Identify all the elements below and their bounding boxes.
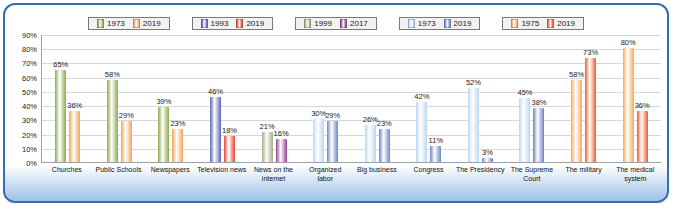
bar-group: 58%73% <box>558 35 610 162</box>
bar-value-label: 38% <box>531 98 546 107</box>
bar-value-label: 73% <box>583 48 598 57</box>
bar[interactable]: 80% <box>623 48 634 162</box>
y-tick-label: 80% <box>22 45 37 54</box>
bar-group: 21%16% <box>248 35 300 162</box>
legend-item[interactable]: 2019 <box>133 19 161 28</box>
legend-label: 1975 <box>521 19 539 28</box>
legend-swatch-icon <box>201 19 208 28</box>
legend-label: 2019 <box>143 19 161 28</box>
legend-item[interactable]: 1973 <box>408 19 436 28</box>
bar-value-label: 29% <box>119 111 134 120</box>
x-tick-label: The Presidency <box>454 165 506 195</box>
bar[interactable]: 58% <box>107 80 118 162</box>
x-tick-label: The medical system <box>609 165 661 195</box>
y-tick-label: 10% <box>22 144 37 153</box>
bar[interactable]: 46% <box>210 97 221 162</box>
bar[interactable]: 45% <box>519 98 530 162</box>
bar[interactable]: 26% <box>365 125 376 162</box>
bar[interactable]: 21% <box>262 132 273 162</box>
bar[interactable]: 11% <box>430 146 441 162</box>
legend-box-blue-red[interactable]: 19932019 <box>192 17 274 30</box>
bar[interactable]: 3% <box>482 158 493 162</box>
bar-groups: 65%36%58%29%39%23%46%18%21%16%30%29%26%2… <box>42 35 661 162</box>
legend-swatch-icon <box>97 19 104 28</box>
legend-label: 2019 <box>454 19 472 28</box>
legend-item[interactable]: 1973 <box>97 19 125 28</box>
bar[interactable]: 52% <box>468 88 479 162</box>
bar-value-label: 21% <box>260 122 275 131</box>
bar-group: 42%11% <box>403 35 455 162</box>
bar-group: 80%36% <box>609 35 661 162</box>
legend-item[interactable]: 1975 <box>511 19 539 28</box>
legend-item[interactable]: 2019 <box>547 19 575 28</box>
bar-value-label: 45% <box>517 88 532 97</box>
legend-swatch-icon <box>511 19 518 28</box>
legend-box-lightorange-red[interactable]: 19752019 <box>502 17 584 30</box>
legend-swatch-icon <box>133 19 140 28</box>
chart-frame: 1973201919932019199920171973201919752019… <box>3 3 669 203</box>
bar-value-label: 16% <box>274 129 289 138</box>
bar[interactable]: 29% <box>121 121 132 162</box>
x-tick-label: Churches <box>41 165 93 195</box>
bar-value-label: 65% <box>53 60 68 69</box>
bar-value-label: 3% <box>482 148 493 157</box>
legend-box-olive-purple[interactable]: 19992017 <box>295 17 377 30</box>
bar-value-label: 26% <box>363 115 378 124</box>
plot-canvas: 65%36%58%29%39%23%46%18%21%16%30%29%26%2… <box>41 35 661 163</box>
bar-group: 46%18% <box>197 35 249 162</box>
legend-label: 2019 <box>246 19 264 28</box>
bar[interactable]: 42% <box>416 102 427 162</box>
legend-label: 1999 <box>314 19 332 28</box>
bar-value-label: 39% <box>156 97 171 106</box>
y-tick-label: 0% <box>26 159 37 168</box>
legend-item[interactable]: 1999 <box>304 19 332 28</box>
bar[interactable]: 36% <box>69 111 80 162</box>
x-tick-label: Public Schools <box>93 165 145 195</box>
legend-item[interactable]: 2017 <box>340 19 368 28</box>
bar-value-label: 46% <box>208 87 223 96</box>
bar[interactable]: 23% <box>172 129 183 162</box>
bar-group: 52%3% <box>455 35 507 162</box>
bar[interactable]: 18% <box>224 136 235 162</box>
bar-group: 45%38% <box>506 35 558 162</box>
legend-label: 1993 <box>211 19 229 28</box>
legend-label: 1973 <box>418 19 436 28</box>
y-tick-label: 20% <box>22 130 37 139</box>
bar-group: 26%23% <box>351 35 403 162</box>
bar[interactable]: 36% <box>637 111 648 162</box>
plot-area: 90%80%70%60%50%40%30%20%10%0% 65%36%58%2… <box>13 35 663 180</box>
bar-value-label: 42% <box>414 92 429 101</box>
x-tick-label: Organized labor <box>299 165 351 195</box>
bar[interactable]: 73% <box>585 58 596 162</box>
bar[interactable]: 30% <box>313 119 324 162</box>
legend-swatch-icon <box>304 19 311 28</box>
bar[interactable]: 58% <box>571 80 582 162</box>
legend-swatch-icon <box>340 19 347 28</box>
x-tick-label: Newspapers <box>144 165 196 195</box>
bar-value-label: 30% <box>311 109 326 118</box>
y-tick-label: 60% <box>22 73 37 82</box>
legend-swatch-icon <box>408 19 415 28</box>
y-tick-label: 90% <box>22 31 37 40</box>
bar[interactable]: 65% <box>55 70 66 162</box>
bar[interactable]: 29% <box>327 121 338 162</box>
y-tick-label: 40% <box>22 102 37 111</box>
legend-label: 2019 <box>557 19 575 28</box>
legend-item[interactable]: 2019 <box>236 19 264 28</box>
bar[interactable]: 16% <box>276 139 287 162</box>
bar-value-label: 58% <box>569 70 584 79</box>
legend-item[interactable]: 2019 <box>444 19 472 28</box>
legend-box-green-orange[interactable]: 19732019 <box>88 17 170 30</box>
legend-box-lightblue-darkblue[interactable]: 19732019 <box>399 17 481 30</box>
bar[interactable]: 39% <box>158 107 169 162</box>
x-tick-label: Big business <box>351 165 403 195</box>
legend-item[interactable]: 1993 <box>201 19 229 28</box>
legend-swatch-icon <box>547 19 554 28</box>
bar[interactable]: 23% <box>379 129 390 162</box>
bar-value-label: 36% <box>635 101 650 110</box>
bar-group: 30%29% <box>300 35 352 162</box>
bar-value-label: 11% <box>429 136 443 145</box>
legend-label: 1973 <box>107 19 125 28</box>
bar[interactable]: 38% <box>533 108 544 162</box>
bar-value-label: 52% <box>466 78 481 87</box>
